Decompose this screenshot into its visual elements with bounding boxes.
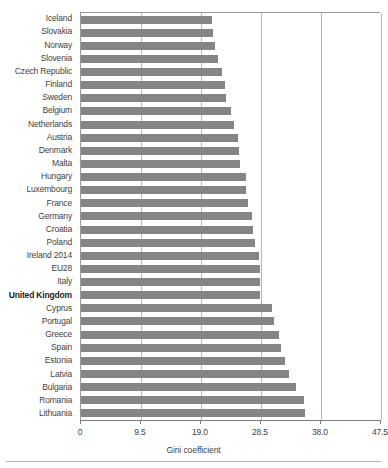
bar: [81, 55, 218, 63]
bar: [81, 68, 222, 76]
bar: [81, 212, 252, 220]
bar: [81, 265, 260, 273]
bar: [81, 147, 239, 155]
bar-row: [81, 66, 380, 79]
bar: [81, 357, 285, 365]
category-label: Luxembourg: [0, 183, 75, 196]
plot-wrapper: IcelandSlovakiaNorwaySloveniaCzech Repub…: [0, 0, 387, 421]
bar: [81, 121, 234, 129]
bar: [81, 42, 215, 50]
category-label: Sweden: [0, 91, 75, 104]
category-label: France: [0, 196, 75, 209]
bar-row: [81, 144, 380, 157]
bar-row: [81, 315, 380, 328]
category-label: Norway: [0, 38, 75, 51]
category-label: Portugal: [0, 315, 75, 328]
bar-row: [81, 131, 380, 144]
category-label: EU28: [0, 262, 75, 275]
x-axis-tick-label: 9.5: [134, 427, 145, 437]
category-label: Cyprus: [0, 301, 75, 314]
category-label: Hungary: [0, 170, 75, 183]
bar-row: [81, 381, 380, 394]
category-label: Germany: [0, 209, 75, 222]
bar: [81, 317, 274, 325]
x-axis-line: [80, 420, 380, 421]
category-label: Malta: [0, 157, 75, 170]
bar-row: [81, 354, 380, 367]
category-label: Italy: [0, 275, 75, 288]
x-axis-tick: [80, 420, 81, 424]
bar: [81, 252, 259, 260]
bar: [81, 186, 246, 194]
bar-row: [81, 26, 380, 39]
category-label: Slovakia: [0, 25, 75, 38]
bar: [81, 16, 212, 24]
x-axis-tick-label: 38.0: [312, 427, 328, 437]
category-label: Slovenia: [0, 51, 75, 64]
bar-row: [81, 276, 380, 289]
bar-row: [81, 197, 380, 210]
bar: [81, 304, 272, 312]
bar: [81, 81, 225, 89]
bar: [81, 396, 304, 404]
category-label: Croatia: [0, 223, 75, 236]
category-label: Romania: [0, 394, 75, 407]
bar-row: [81, 118, 380, 131]
bar: [81, 160, 240, 168]
bar-row: [81, 223, 380, 236]
gridline: [381, 13, 382, 420]
bar: [81, 199, 248, 207]
bar: [81, 278, 260, 286]
bar-row: [81, 367, 380, 380]
category-label: Spain: [0, 341, 75, 354]
bar-row: [81, 184, 380, 197]
bar-row: [81, 249, 380, 262]
bars-container: [81, 13, 380, 420]
bar-row: [81, 171, 380, 184]
x-axis-tick: [380, 420, 381, 424]
bar-row: [81, 236, 380, 249]
bar: [81, 383, 296, 391]
bar: [81, 409, 305, 417]
bar: [81, 331, 279, 339]
x-axis-tick: [140, 420, 141, 424]
category-label: Austria: [0, 130, 75, 143]
bar-row: [81, 262, 380, 275]
bar: [81, 239, 255, 247]
category-label: United Kingdom: [0, 288, 75, 301]
category-label: Belgium: [0, 104, 75, 117]
category-label: Lithuania: [0, 407, 75, 420]
bar: [81, 173, 246, 181]
category-label: Finland: [0, 78, 75, 91]
bar-row: [81, 92, 380, 105]
x-axis-tick: [320, 420, 321, 424]
category-label: Denmark: [0, 144, 75, 157]
bar: [81, 107, 231, 115]
x-axis-tick-label: 47.5: [372, 427, 388, 437]
bar-row: [81, 79, 380, 92]
bar-row: [81, 210, 380, 223]
x-axis-tick-label: 0: [78, 427, 83, 437]
bar-row: [81, 302, 380, 315]
footer-divider: [6, 461, 381, 462]
bar: [81, 226, 253, 234]
bar-row: [81, 328, 380, 341]
x-axis-tick: [200, 420, 201, 424]
bar: [81, 370, 289, 378]
plot-area: [80, 12, 380, 420]
x-axis-tick-label: 28.5: [252, 427, 268, 437]
x-axis-title: Gini coefficient: [0, 445, 387, 455]
bar-row: [81, 407, 380, 420]
bar-row: [81, 394, 380, 407]
bar-row: [81, 13, 380, 26]
category-label: Poland: [0, 236, 75, 249]
category-label: Bulgaria: [0, 380, 75, 393]
category-label: Iceland: [0, 12, 75, 25]
bar-row: [81, 157, 380, 170]
bar-row: [81, 52, 380, 65]
category-axis-labels: IcelandSlovakiaNorwaySloveniaCzech Repub…: [0, 12, 75, 420]
bar-row: [81, 289, 380, 302]
bar: [81, 29, 213, 37]
category-label: Ireland 2014: [0, 249, 75, 262]
